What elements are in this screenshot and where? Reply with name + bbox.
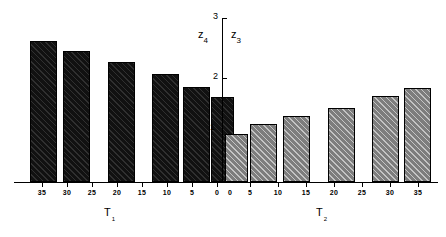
x-tick-left-30: [67, 183, 68, 187]
x-axis-title-left: T1: [104, 206, 114, 220]
x-label-right-1: 5: [242, 189, 258, 196]
x-tick-right-25: [362, 183, 363, 187]
x-label-left-6: 5: [184, 189, 200, 196]
x-label-right-0: 0: [222, 189, 238, 196]
series-label-z3: z3: [231, 28, 241, 43]
bar-chart: 3 2 1 z4 z3 35 30 25 20 15 10 5 0 0 5: [0, 0, 446, 237]
x-tick-left-35: [42, 183, 43, 187]
x-label-right-5: 25: [354, 189, 370, 196]
bar-right-35: [404, 88, 431, 182]
x-label-left-3: 20: [109, 189, 125, 196]
x-tick-right-5: [250, 183, 251, 187]
x-label-right-3: 15: [298, 189, 314, 196]
bar-right-10: [283, 116, 310, 182]
x-tick-left-5: [192, 183, 193, 187]
x-tick-right-35: [418, 183, 419, 187]
x-label-left-4: 15: [134, 189, 150, 196]
bar-right-20: [328, 108, 355, 182]
x-axis-baseline: [14, 182, 438, 183]
bar-left-35: [30, 41, 57, 182]
x-axis-title-right-sub: 2: [324, 216, 327, 222]
y-tick-label-1: 1: [210, 122, 220, 132]
x-axis-title-left-sub: 1: [112, 216, 115, 222]
x-label-right-6: 30: [382, 189, 398, 196]
x-label-left-2: 25: [84, 189, 100, 196]
x-axis-title-right: T2: [316, 206, 326, 220]
y-tick-label-3: 3: [204, 11, 218, 21]
x-label-left-0: 35: [34, 189, 50, 196]
bar-left-30: [63, 51, 90, 182]
series-label-z4: z4: [198, 28, 208, 43]
x-axis-title-right-text: T: [316, 206, 323, 218]
x-tick-right-15: [306, 183, 307, 187]
x-tick-left-10: [167, 183, 168, 187]
bar-right-5: [250, 124, 277, 182]
x-tick-right-10: [278, 183, 279, 187]
x-axis-title-left-text: T: [104, 206, 111, 218]
series-label-z4-sub: 4: [204, 36, 208, 45]
x-tick-left-20: [117, 183, 118, 187]
x-label-left-1: 30: [59, 189, 75, 196]
x-label-left-5: 10: [159, 189, 175, 196]
bar-right-30: [372, 96, 399, 182]
y-tick-label-2: 2: [204, 71, 218, 81]
x-label-right-2: 10: [270, 189, 286, 196]
bar-left-10: [152, 74, 179, 182]
bar-left-5: [183, 87, 210, 182]
x-tick-left-0: [217, 183, 218, 187]
bar-right-0: [225, 134, 248, 182]
y-tick-2: [223, 78, 227, 79]
y-tick-3: [223, 18, 227, 19]
x-tick-left-25: [92, 183, 93, 187]
plot-area: 3 2 1 z4 z3 35 30 25 20 15 10 5 0 0 5: [0, 0, 446, 237]
series-label-z3-sub: 3: [237, 36, 241, 45]
bar-left-20: [108, 62, 135, 182]
y-axis-line: [222, 18, 223, 182]
x-tick-right-20: [334, 183, 335, 187]
series-label-z3-text: z: [231, 28, 237, 40]
series-label-z4-text: z: [198, 28, 204, 40]
x-tick-right-30: [390, 183, 391, 187]
x-tick-left-15: [142, 183, 143, 187]
x-label-right-7: 35: [410, 189, 426, 196]
x-label-right-4: 20: [326, 189, 342, 196]
